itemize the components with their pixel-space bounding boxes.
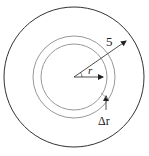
thickness-label: Δr <box>98 114 110 128</box>
inner-radius-label: r <box>88 64 93 76</box>
concentric-circles-figure: 5 r Δr <box>0 0 149 156</box>
thickness-tick <box>101 93 108 99</box>
diagram: 5 r Δr <box>0 0 149 156</box>
angle-arc <box>81 73 82 78</box>
outer-radius-arrow <box>74 41 126 77</box>
outer-radius-label: 5 <box>106 34 113 49</box>
